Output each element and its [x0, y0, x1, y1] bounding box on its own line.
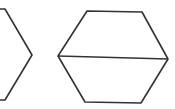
- background: [0, 0, 175, 109]
- diagram-canvas: [0, 0, 175, 109]
- diagram-svg: [0, 0, 175, 109]
